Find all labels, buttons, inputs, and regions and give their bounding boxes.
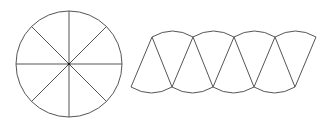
sector-radius-edge — [254, 37, 275, 87]
sector-arc-bottom — [131, 87, 172, 93]
sector-radius-edge — [275, 37, 295, 87]
center-point — [68, 63, 71, 66]
sector-diagram — [0, 0, 330, 122]
sector-arc-bottom — [254, 87, 295, 93]
sector-radius-edge — [234, 37, 254, 87]
rearranged-sectors — [131, 31, 316, 93]
sector-arc-top — [275, 31, 316, 37]
sector-arc-top — [234, 31, 275, 37]
sector-radius-edge — [213, 37, 234, 87]
sector-arc-bottom — [172, 87, 213, 93]
sector-radius-edge — [172, 37, 193, 87]
divided-circle — [16, 11, 122, 117]
sector-radius-edge — [193, 37, 213, 87]
sector-radius-edge — [295, 37, 316, 87]
sector-radius-edge — [131, 37, 152, 87]
sector-arc-top — [152, 31, 193, 37]
sector-arc-bottom — [213, 87, 254, 93]
sector-radius-edge — [152, 37, 172, 87]
sector-arc-top — [193, 31, 234, 37]
